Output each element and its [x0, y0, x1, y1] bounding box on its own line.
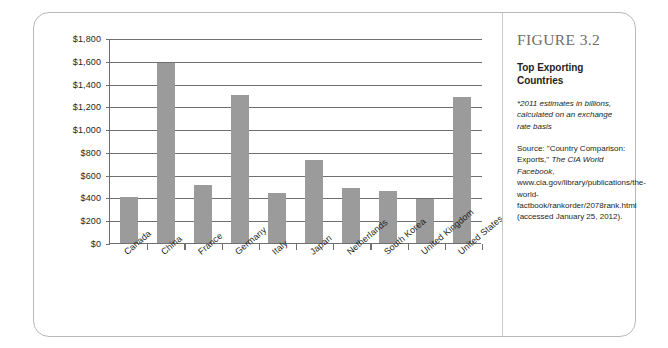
- y-tick-label: $800: [81, 148, 101, 158]
- y-tick-mark: [106, 153, 110, 154]
- x-axis-labels: CanadaChinaFranceGermanyItalyJapanNether…: [109, 249, 481, 309]
- figure-card: $1,800$1,600$1,400$1,200$1,000$800$600$4…: [33, 12, 636, 337]
- y-tick-mark: [106, 39, 110, 40]
- bars-layer: [110, 39, 481, 243]
- bar-slot: [110, 39, 147, 243]
- figure-title: Top Exporting Countries: [517, 62, 627, 87]
- bar-slot: [370, 39, 407, 243]
- y-tick-label: $600: [81, 171, 101, 181]
- figure-note: *2011 estimates in billions, calculated …: [517, 98, 627, 132]
- y-tick-label: $400: [81, 193, 101, 203]
- y-tick-mark: [106, 62, 110, 63]
- bar-slot: [407, 39, 444, 243]
- y-tick-mark: [106, 130, 110, 131]
- bar-slot: [333, 39, 370, 243]
- figure-source: Source: "Country Comparison: Exports," T…: [517, 143, 627, 223]
- caption-panel: FIGURE 3.2 Top Exporting Countries *2011…: [502, 13, 637, 336]
- bar-slot: [295, 39, 332, 243]
- y-tick-label: $1,800: [73, 34, 101, 44]
- y-tick-mark: [106, 244, 110, 245]
- y-tick-label: $200: [81, 216, 101, 226]
- plot-area: [109, 39, 481, 244]
- bar[interactable]: [157, 63, 175, 243]
- y-tick-mark: [106, 198, 110, 199]
- y-tick-label: $1,400: [73, 80, 101, 90]
- bar-slot: [184, 39, 221, 243]
- bar[interactable]: [342, 188, 360, 243]
- plot-wrapper: $1,800$1,600$1,400$1,200$1,000$800$600$4…: [54, 29, 484, 265]
- y-tick-label: $1,000: [73, 125, 101, 135]
- x-tick-mark: [482, 244, 483, 250]
- bar-chart: $1,800$1,600$1,400$1,200$1,000$800$600$4…: [34, 13, 502, 336]
- y-tick-mark: [106, 221, 110, 222]
- y-tick-label: $1,200: [73, 102, 101, 112]
- bar[interactable]: [231, 95, 249, 243]
- bar[interactable]: [194, 185, 212, 243]
- y-tick-mark: [106, 107, 110, 108]
- y-axis-labels: $1,800$1,600$1,400$1,200$1,000$800$600$4…: [54, 29, 106, 241]
- y-tick-label: $0: [91, 239, 101, 249]
- bar-slot: [147, 39, 184, 243]
- y-tick-label: $1,600: [73, 57, 101, 67]
- y-tick-mark: [106, 85, 110, 86]
- y-tick-mark: [106, 176, 110, 177]
- bar[interactable]: [120, 197, 138, 243]
- bar[interactable]: [268, 193, 286, 243]
- bar[interactable]: [305, 160, 323, 243]
- bar-slot: [221, 39, 258, 243]
- bar-slot: [258, 39, 295, 243]
- figure-number: FIGURE 3.2: [517, 31, 627, 49]
